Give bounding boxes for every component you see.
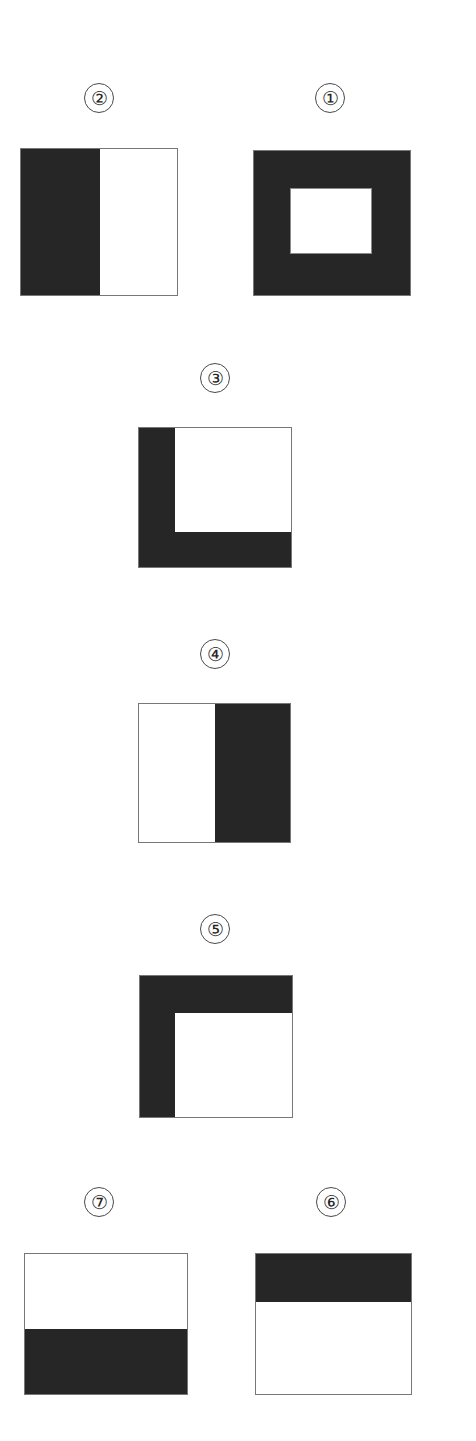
circled-number-label-5: ⑤ [200, 914, 230, 944]
circled-number-text: ③ [207, 368, 224, 387]
pattern-tile-6 [255, 1253, 412, 1395]
circled-number-text: ① [322, 88, 339, 107]
circled-number-label-2: ② [84, 83, 114, 113]
circled-number-label-7: ⑦ [84, 1187, 114, 1217]
pattern-tile-3 [138, 427, 292, 568]
pattern-tile-7 [24, 1253, 188, 1395]
circled-number-text: ④ [207, 644, 224, 663]
circled-number-text: ② [91, 88, 108, 107]
circled-number-text: ⑦ [91, 1192, 108, 1211]
pattern-tile-4 [138, 703, 291, 843]
figure-sheet: ②①③④⑤⑦⑥ [0, 0, 476, 1441]
circled-number-label-6: ⑥ [316, 1187, 346, 1217]
circled-number-text: ⑥ [323, 1192, 340, 1211]
pattern-tile-2 [20, 148, 178, 296]
black-region-right-half [215, 704, 291, 843]
black-region-top-band [256, 1254, 412, 1302]
black-region-bottom-band [25, 1329, 188, 1395]
circled-number-label-3: ③ [200, 363, 230, 393]
circled-number-label-4: ④ [200, 639, 230, 669]
circled-number-text: ⑤ [207, 919, 224, 938]
black-region-bottom-band [139, 532, 292, 568]
circled-number-label-1: ① [315, 83, 345, 113]
pattern-tile-5 [139, 975, 293, 1118]
white-center-hole [290, 188, 372, 254]
pattern-tile-1 [253, 150, 411, 296]
black-region-left-half [21, 149, 100, 296]
black-region-left-band [140, 976, 175, 1118]
